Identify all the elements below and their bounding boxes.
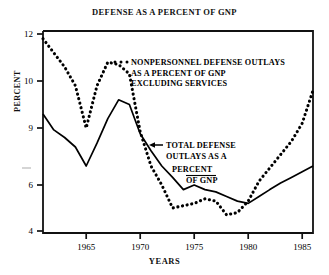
x-tick-label: 1985 [293,242,312,252]
x-tick-label: 1975 [185,242,204,252]
annotation-line: AS A PERCENT OF GNP [131,69,226,78]
y-axis-tick-labels: 4691012 [24,29,34,236]
plot-area: 4691012 19651970197519801985 NONPERSONNE… [0,0,329,275]
y-tick-label: 9 [29,123,34,133]
dotted-legend-swatch-icon [114,61,129,64]
annotation-line: TOTAL DEFENSE [166,141,236,150]
x-tick-label: 1980 [239,242,258,252]
annotation-line: PERCENT [172,165,213,174]
chart-figure: DEFENSE AS A PERCENT OF GNP PERCENT YEAR… [0,0,329,275]
annotation-line: NONPERSONNEL DEFENSE OUTLAYS [131,58,285,67]
annotation-line: OF GNP [186,176,218,185]
y-tick-label: 6 [29,180,34,190]
annotation-line: EXCLUDING SERVICES [131,79,228,88]
left-arrow-icon [149,142,163,147]
nonpersonnel-legend: NONPERSONNEL DEFENSE OUTLAYSAS A PERCENT… [131,58,285,88]
x-axis-tick-labels: 19651970197519801985 [77,242,312,252]
annotation-line: OUTLAYS AS A [166,152,227,161]
x-tick-label: 1965 [77,242,96,252]
y-tick-label: 4 [29,226,34,236]
total-defense-callout: TOTAL DEFENSEOUTLAYS AS APERCENTOF GNP [166,141,236,185]
y-tick-label: 10 [24,76,34,86]
y-tick-label: 12 [24,29,33,39]
x-tick-label: 1970 [131,242,150,252]
